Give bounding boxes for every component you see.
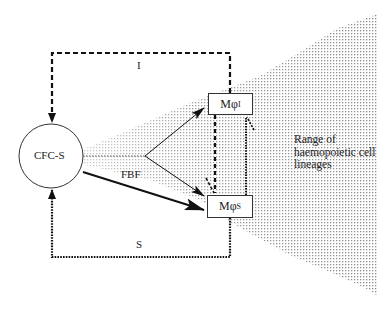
mphi-s-box: MφS xyxy=(207,195,253,218)
lineage-range-label: Range of haemopoietic cell lineages xyxy=(294,133,384,171)
mphi-i-label-main: Mφ xyxy=(220,97,238,112)
haemopoiesis-regulation-diagram: CFC-S MφI MφS I S FBF Range of haemopoie… xyxy=(0,0,391,310)
inhibition-label: I xyxy=(137,59,141,71)
mphi-s-label-main: Mφ xyxy=(219,199,237,214)
cfc-s-label: CFC-S xyxy=(34,149,65,161)
mphi-i-label-sub: I xyxy=(238,100,241,109)
mphi-s-label-sub: S xyxy=(237,202,241,211)
stimulation-label: S xyxy=(136,238,142,250)
fbf-label: FBF xyxy=(121,168,141,180)
mphi-i-box: MφI xyxy=(208,93,253,115)
